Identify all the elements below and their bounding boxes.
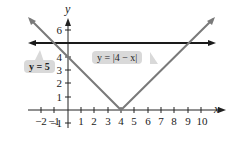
- y-tick-label: 2: [57, 77, 63, 89]
- left-arrow-icon: [28, 40, 36, 46]
- plot-area: −2 −1 1 2 3 4 5 6 7 8 9 10 −1 1 2 3 4 6 …: [0, 0, 230, 152]
- y-tick-label: 4: [57, 51, 63, 63]
- x-tick-label: 9: [185, 115, 191, 127]
- x-tick-label: 4: [118, 115, 124, 127]
- x-tick-label: 7: [158, 115, 164, 127]
- y-axis-arrow-icon: [65, 18, 71, 26]
- x-tick-label: 8: [171, 115, 177, 127]
- x-tick-label: 10: [197, 115, 209, 127]
- x-tick-label: 2: [91, 115, 97, 127]
- graph-figure: −2 −1 1 2 3 4 5 6 7 8 9 10 −1 1 2 3 4 6 …: [0, 0, 230, 152]
- x-axis-label: x: [213, 102, 220, 116]
- y-tick-label: 1: [57, 91, 63, 103]
- x-tick-label: 6: [145, 115, 151, 127]
- y-tick-label: 6: [57, 24, 63, 36]
- callout-abs-value: y = |4 − x|: [92, 51, 142, 64]
- x-tick-label: −2: [35, 115, 47, 127]
- x-tick-label: 3: [105, 115, 111, 127]
- right-arrow-icon: [208, 40, 216, 46]
- y-tick-label: 3: [57, 64, 63, 76]
- y-tick-label: −1: [50, 117, 62, 129]
- x-tick-label: 5: [131, 115, 137, 127]
- x-tick-label: 1: [78, 115, 84, 127]
- callout-y-equals-5: y = 5: [24, 60, 55, 73]
- callout-pointer: [150, 52, 158, 64]
- y-axis-label: y: [64, 2, 71, 16]
